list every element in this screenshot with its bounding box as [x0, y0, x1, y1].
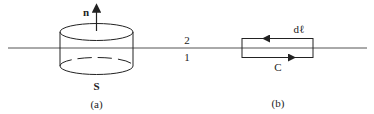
surface-label: S	[93, 80, 99, 92]
medium-1-label: 1	[184, 51, 190, 63]
medium-2-label: 2	[184, 34, 190, 46]
normal-label: n	[83, 6, 89, 18]
boundary-conditions-diagram: n S (a) 2 1 dℓ C (b)	[0, 0, 374, 114]
cylinder-bottom-back-arc	[60, 58, 133, 67]
panel-a-caption: (a)	[90, 98, 103, 111]
line-element-label: dℓ	[294, 23, 305, 35]
pillbox-cylinder	[60, 24, 133, 75]
panel-b-caption: (b)	[272, 97, 285, 110]
cylinder-bottom-front-arc	[60, 66, 133, 75]
contour-label: C	[274, 61, 281, 73]
